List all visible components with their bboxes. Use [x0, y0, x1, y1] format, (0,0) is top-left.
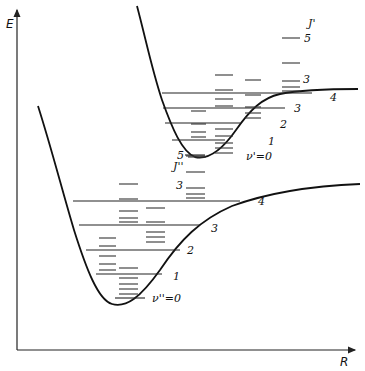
upper-v4-label: 4 [329, 91, 337, 104]
upper-rotational-levels [191, 38, 300, 153]
energy-diagram: E R [0, 0, 365, 371]
upper-j-label: J' [306, 17, 315, 30]
upper-v2-label: 2 [279, 118, 287, 131]
x-axis-label: R [340, 355, 348, 369]
upper-potential-curve [137, 6, 358, 158]
upper-v0-label: ν'=0 [246, 150, 272, 163]
upper-v3-label: 3 [294, 102, 301, 115]
upper-j3-label: 3 [303, 73, 310, 86]
y-axis-label: E [6, 17, 14, 31]
lower-j-label: J'' [171, 160, 183, 173]
lower-j3-label: 3 [176, 179, 183, 192]
upper-j5-label: 5 [304, 32, 311, 45]
lower-v0-label: ν''=0 [152, 292, 181, 305]
lower-v4-label: 4 [257, 195, 265, 208]
lower-potential-curve [38, 106, 360, 305]
lower-v3-label: 3 [211, 222, 218, 235]
lower-v1-label: 1 [173, 270, 180, 283]
upper-v1-label: 1 [268, 135, 275, 148]
upper-vibrational-levels [162, 93, 312, 155]
lower-v2-label: 2 [186, 244, 194, 257]
